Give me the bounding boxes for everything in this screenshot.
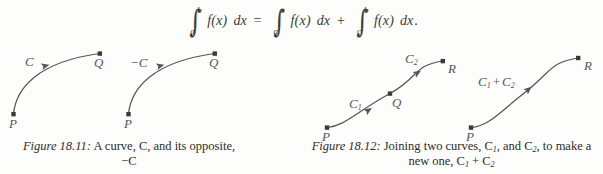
textbook-page-fragment: ∫ b a f(x) dx = ∫ c a f(x) dx + ∫ b c f(…	[0, 0, 603, 174]
label-point-R-sum: R	[584, 59, 592, 72]
figure-18-11-caption-line-2: −C	[0, 154, 258, 169]
label-curve-C2: C2	[405, 52, 418, 65]
label-curve-C1-plus-C2: C1+C2	[478, 75, 515, 88]
sum-label-plus: +	[491, 74, 502, 89]
label-point-Q-curve-C: Q	[94, 56, 103, 69]
figure-18-12-caption-part-4: new one, C	[408, 154, 465, 168]
label-curve-minus-C: −C	[130, 56, 147, 69]
sum-label-base-2: C	[502, 74, 511, 89]
joined-curve-end-R-dot	[441, 59, 445, 63]
label-point-R-joined: R	[448, 62, 456, 75]
figure-18-12-caption-part-1: Joining two curves, C	[384, 139, 493, 153]
figure-18-12-caption-sub-1: 1	[493, 145, 497, 154]
label-point-P-curve-C: P	[9, 117, 17, 130]
label-curve-C1-base: C	[349, 96, 358, 111]
figure-18-12-sum-curve	[469, 56, 581, 130]
sum-label-sub-2: 2	[511, 81, 515, 90]
label-curve-C: C	[25, 55, 34, 68]
label-curve-C1-subscript: 1	[358, 103, 362, 112]
figure-18-11-number: Figure 18.11:	[23, 139, 91, 153]
label-curve-C2-base: C	[405, 51, 414, 66]
figure-18-12-caption-sub-3: 1	[465, 160, 469, 169]
figure-18-12-caption-sub-2: 2	[533, 145, 537, 154]
curve-C1-plus-C2-path	[471, 58, 578, 128]
figure-18-12-caption-line-2: new one, C1 + C2	[300, 154, 603, 169]
figure-18-12-caption: Figure 18.12: Joining two curves, C1, an…	[300, 139, 603, 170]
figure-18-12-caption-part-3: , to make a	[537, 139, 592, 153]
sum-label-base-1: C	[478, 74, 487, 89]
figure-18-11-caption: Figure 18.11: A curve, C, and its opposi…	[0, 139, 258, 170]
figure-18-12-caption-part-2: , and C	[497, 139, 533, 153]
figure-18-11-caption-text: A curve, C, and its opposite,	[93, 139, 235, 153]
label-curve-C2-subscript: 2	[414, 58, 418, 67]
figure-18-12-number: Figure 18.12:	[312, 139, 381, 153]
figure-18-12-caption-sub-4: 2	[491, 160, 495, 169]
label-point-Q-curve-minus-C: Q	[209, 56, 218, 69]
label-point-P-curve-minus-C: P	[124, 117, 132, 130]
label-point-Q-joined: Q	[392, 96, 401, 109]
label-curve-C1: C1	[349, 97, 362, 110]
sum-curve-end-R-dot	[576, 56, 580, 60]
figure-18-12-caption-line-1: Figure 18.12: Joining two curves, C1, an…	[300, 139, 603, 154]
figure-18-11-caption-line-1: Figure 18.11: A curve, C, and its opposi…	[0, 139, 258, 154]
figure-18-12-joined-curves	[325, 59, 445, 130]
figure-18-12-caption-part-5: + C	[469, 154, 491, 168]
sum-label-sub-1: 1	[487, 81, 491, 90]
